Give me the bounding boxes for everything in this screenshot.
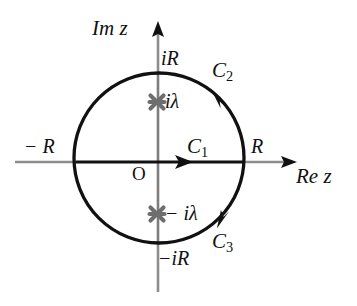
origin-label: O [132, 164, 146, 183]
contour-c3-label-base: C [212, 229, 226, 253]
contour-c2-label-base: C [212, 58, 226, 82]
contour-c3-label-sub: 3 [226, 239, 233, 255]
figure-canvas: Im z Re z iR −iR − R R O iλ − iλ C1 C2 C… [0, 0, 357, 306]
tick-label-left-minus-R: − R [24, 136, 55, 156]
contour-c3-label: C3 [212, 231, 233, 255]
tick-label-bottom-minus-iR: −iR [158, 248, 189, 268]
tick-label-right-R: R [251, 136, 263, 156]
real-axis-label: Re z [296, 166, 332, 187]
pole-lower-label: − iλ [165, 203, 198, 223]
imaginary-axis-label: Im z [92, 18, 128, 39]
contour-c1-label: C1 [187, 136, 208, 160]
contour-c1-label-sub: 1 [201, 144, 208, 160]
contour-c2-label: C2 [212, 60, 233, 84]
pole-upper-label: iλ [165, 91, 179, 111]
contour-c1-label-base: C [187, 134, 201, 158]
tick-label-top-iR: iR [161, 48, 179, 68]
contour-c2-label-sub: 2 [226, 68, 233, 84]
